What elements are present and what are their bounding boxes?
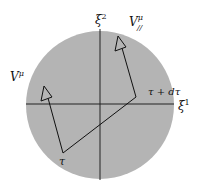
tau-dtau-label: τ + dτ [148,86,181,97]
V-label: Vμ [10,69,24,84]
xi1-label: ξ1 [178,98,190,113]
parallel-transport-diagram: ξ2 ξ1 Vμ Vμ// τ τ + dτ [0,0,202,190]
tau-label: τ [59,155,66,168]
xi2-label: ξ2 [95,12,107,27]
Vpar-label: Vμ// [129,13,144,32]
